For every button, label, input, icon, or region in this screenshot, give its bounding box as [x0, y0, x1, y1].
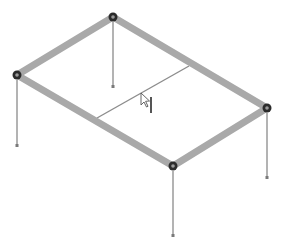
node-right[interactable] — [263, 104, 272, 113]
inner-beam[interactable] — [97, 66, 189, 118]
column-base-top — [112, 85, 115, 88]
node-bottom[interactable] — [169, 162, 178, 171]
beam-tool-icon — [150, 97, 152, 113]
column-base-right — [266, 176, 269, 179]
column-base-bottom — [172, 234, 175, 237]
column-base-left — [16, 144, 19, 147]
pointer-cursor-icon — [141, 93, 152, 113]
structural-model-viewport[interactable] — [0, 0, 282, 249]
beam-right-bottom[interactable] — [173, 108, 267, 166]
beam-top-right[interactable] — [113, 17, 267, 108]
perimeter-beams — [17, 17, 267, 166]
beam-top-left[interactable] — [17, 17, 113, 75]
frame-drawing — [0, 0, 282, 249]
node-left[interactable] — [13, 71, 22, 80]
node-top[interactable] — [109, 13, 118, 22]
